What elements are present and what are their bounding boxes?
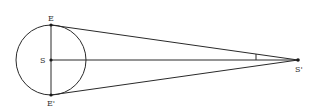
- line-e-prime-s-prime: [51, 60, 298, 95]
- point-s: [49, 58, 52, 61]
- point-e: [49, 23, 52, 26]
- label-e: E: [48, 14, 54, 23]
- label-e-prime: E': [47, 99, 55, 108]
- point-s-prime: [296, 58, 300, 62]
- parallax-diagram: E S E' S': [0, 0, 323, 111]
- point-e-prime: [49, 93, 52, 96]
- label-s-prime: S': [295, 65, 303, 74]
- label-s: S: [40, 56, 45, 65]
- line-e-s-prime: [51, 25, 298, 60]
